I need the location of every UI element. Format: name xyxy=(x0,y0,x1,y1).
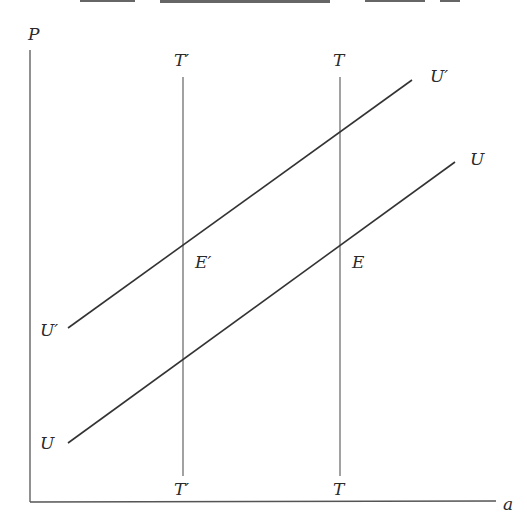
u-end-label: U xyxy=(470,149,485,169)
cutoff-caption xyxy=(80,0,460,3)
x-axis xyxy=(30,501,496,502)
y-axis-label: P xyxy=(27,24,40,44)
equilibrium-e-prime-label: E′ xyxy=(194,252,211,272)
t-prime-bottom-label: T′ xyxy=(174,479,189,499)
u-prime-line xyxy=(68,80,412,328)
x-axis-label: a xyxy=(503,494,513,514)
t-top-label: T xyxy=(333,50,346,70)
t-prime-top-label: T′ xyxy=(174,50,189,70)
equilibrium-e-label: E xyxy=(351,252,365,272)
u-prime-end-label: U′ xyxy=(430,66,448,86)
u-prime-start-label: U′ xyxy=(40,320,58,340)
u-start-label: U xyxy=(40,433,55,453)
t-bottom-label: T xyxy=(333,479,346,499)
u-line xyxy=(68,162,455,443)
diagram: P a T′ T′ T T U′ U′ U U E′ E xyxy=(0,0,527,524)
